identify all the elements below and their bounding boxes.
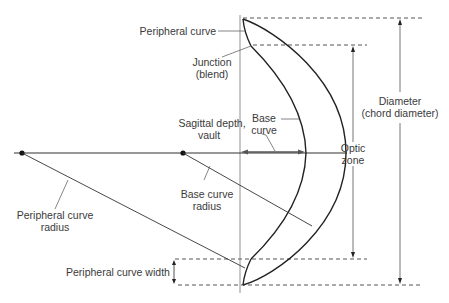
label-diameter-line1: Diameter [360, 95, 440, 107]
peripheral-radius-leader [55, 180, 68, 209]
label-peripheral-curve-width: Peripheral curve width [66, 266, 170, 278]
label-optic-zone-line1: Optic [333, 142, 373, 154]
label-peripheral-radius-line2: radius [10, 221, 100, 233]
peripheral-width-arrow [172, 260, 176, 284]
label-junction-line1: Junction [182, 56, 242, 68]
peripheral-curve-bottom [243, 259, 251, 285]
sagittal-depth-arrow [241, 150, 305, 155]
label-peripheral-curve-radius: Peripheral curve radius [10, 209, 100, 233]
label-diameter: Diameter (chord diameter) [360, 95, 440, 119]
base-curve-radius-leader [204, 166, 210, 180]
label-base-curve-line1: Base [244, 112, 284, 124]
label-peripheral-curve: Peripheral curve [130, 25, 216, 37]
peripheral-curve-top [243, 19, 251, 46]
label-base-curve: Base curve [244, 112, 284, 136]
label-base-curve-radius-line2: radius [172, 200, 242, 212]
label-junction: Junction (blend) [182, 56, 242, 80]
contact-lens-diagram [0, 0, 449, 303]
diameter-arrows [398, 19, 402, 284]
label-optic-zone: Optic zone [333, 142, 373, 166]
label-optic-zone-line2: zone [333, 154, 373, 166]
label-base-curve-line2: curve [244, 124, 284, 136]
label-junction-line2: (blend) [182, 68, 242, 80]
label-base-curve-radius-line1: Base curve [172, 188, 242, 200]
label-peripheral-radius-line1: Peripheral curve [10, 209, 100, 221]
label-diameter-line2: (chord diameter) [360, 107, 440, 119]
label-base-curve-radius: Base curve radius [172, 188, 242, 212]
